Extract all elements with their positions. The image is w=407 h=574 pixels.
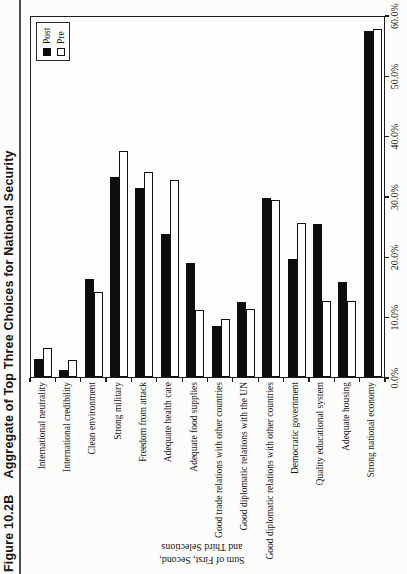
bar-post <box>34 359 43 377</box>
category-axis-tick <box>232 378 233 382</box>
bar-pre <box>373 29 382 377</box>
category-axis-title-line2: and Third Selections <box>92 541 312 554</box>
post-swatch-icon <box>43 48 51 56</box>
bar-pre <box>119 151 128 377</box>
bar-pre <box>170 180 179 377</box>
bar-post <box>85 279 94 377</box>
percent-tick-label: 30.0% <box>389 175 400 219</box>
bar-post <box>338 282 347 377</box>
bar-post <box>288 259 297 377</box>
bar-pre <box>195 310 204 377</box>
bar-pre <box>271 200 280 377</box>
bar-pre <box>297 223 306 377</box>
pre-swatch-icon <box>57 48 65 56</box>
category-label: Strong military <box>113 382 124 440</box>
category-label: Adequate health care <box>163 382 174 462</box>
bar-post <box>110 177 119 377</box>
bar-pre <box>68 360 77 377</box>
bar-post <box>59 370 68 377</box>
scanned-book-figure: Figure 10.2BAggregate of Top Three Choic… <box>0 0 407 574</box>
bar-post <box>237 302 246 377</box>
category-label: International neutrality <box>37 382 48 469</box>
bar-post <box>161 234 170 377</box>
bar-pre <box>246 309 255 377</box>
bar-pre <box>347 301 356 377</box>
category-axis-tick <box>207 378 208 382</box>
legend-item-pre: Pre <box>55 23 66 56</box>
category-axis-tick <box>55 378 56 382</box>
bar-pre <box>94 292 103 377</box>
category-label: Adequate food supplies <box>189 382 200 472</box>
percent-tick-label: 20.0% <box>389 235 400 279</box>
category-label: Adequate housing <box>341 382 352 451</box>
category-axis-title-line1: Sum of First, Second, <box>92 554 312 567</box>
bar-post <box>313 224 322 377</box>
legend-label-post: Post <box>42 28 52 44</box>
category-axis-tick <box>359 378 360 382</box>
figure-number: Figure 10.2B <box>2 495 16 572</box>
bar-pre <box>144 172 153 377</box>
category-axis-tick <box>80 378 81 382</box>
percent-tick-label: 60.0% <box>389 0 400 38</box>
bar-post <box>364 31 373 377</box>
plot-area <box>30 16 385 378</box>
category-axis-tick <box>308 378 309 382</box>
category-label: Freedom from attack <box>138 382 149 462</box>
category-label: International credibility <box>62 382 73 472</box>
title-rule <box>19 0 21 574</box>
category-label: Clean environment <box>87 382 98 455</box>
category-axis-tick <box>283 378 284 382</box>
figure-title: Figure 10.2BAggregate of Top Three Choic… <box>2 150 16 572</box>
percent-tick-label: 0.0% <box>389 356 400 400</box>
figure-title-text: Aggregate of Top Three Choices for Natio… <box>2 150 16 478</box>
legend-item-post: Post <box>41 23 52 56</box>
category-axis-tick <box>156 378 157 382</box>
category-label: Strong national economy <box>366 382 377 478</box>
bar-post <box>212 326 221 377</box>
bar-post <box>262 198 271 377</box>
rotated-chart-canvas: Figure 10.2BAggregate of Top Three Choic… <box>0 0 407 574</box>
category-label: Good trade relations with other countrie… <box>214 382 225 538</box>
category-label: Good diplomatic relations with the UN <box>239 382 250 531</box>
bar-pre <box>43 348 52 377</box>
category-axis-tick <box>334 378 335 382</box>
category-axis-tick <box>131 378 132 382</box>
category-label: Democratic government <box>290 382 301 474</box>
percent-tick-label: 50.0% <box>389 54 400 98</box>
bar-post <box>135 188 144 377</box>
bar-pre <box>322 301 331 377</box>
category-axis-tick <box>105 378 106 382</box>
category-axis-tick <box>258 378 259 382</box>
legend: Post Pre <box>36 22 70 61</box>
category-axis-tick <box>182 378 183 382</box>
percent-tick-label: 40.0% <box>389 115 400 159</box>
category-axis-title: Sum of First, Second, and Third Selectio… <box>92 539 312 567</box>
category-label: Good diplomatic relations with other cou… <box>265 382 276 560</box>
bar-post <box>186 263 195 377</box>
percent-tick-label: 10.0% <box>389 296 400 340</box>
bar-pre <box>221 319 230 377</box>
category-label: Quality educational system <box>315 382 326 485</box>
legend-label-pre: Pre <box>56 31 66 44</box>
category-axis-tick <box>29 378 30 382</box>
